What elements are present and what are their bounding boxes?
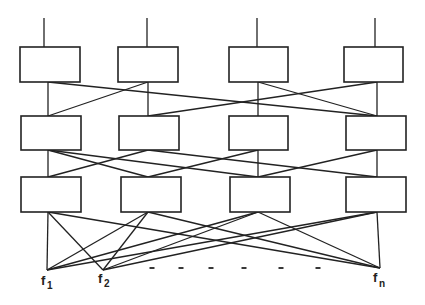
connection-lines [44,18,380,270]
switch-box-r2-c1 [21,116,81,150]
stage1-stage2-link [148,82,377,116]
switch-box-r2-c4 [346,116,406,150]
switch-box-r1-c1 [20,47,80,82]
switch-box-r2-c3 [229,116,288,150]
f1-label: f [41,273,46,288]
fn-label: f [373,270,378,285]
switch-boxes [20,47,406,212]
switch-box-r3-c3 [230,177,290,212]
stage1-stage2-link [258,82,377,116]
output-link-fn [377,212,380,268]
output-link-f2 [103,212,377,270]
output-label-fn: f n [373,270,385,289]
switch-box-r1-c4 [344,47,403,82]
stage2-stage3-link [148,150,377,177]
f1-subscript: 1 [47,280,53,291]
output-link-f1 [47,212,48,270]
switch-box-r1-c2 [118,47,178,82]
output-link-f1 [47,212,258,270]
stage2-stage3-link [148,150,258,177]
switch-box-r2-c2 [119,116,179,150]
stage2-stage3-link [258,150,377,177]
switch-box-r3-c4 [346,177,406,212]
switch-box-r1-c3 [229,47,288,82]
output-link-fn [258,212,380,268]
fn-subscript: n [379,278,385,289]
f2-subscript: 2 [104,278,110,289]
switch-box-r3-c2 [121,177,181,212]
network-diagram: f 1 f 2 f n [0,0,425,305]
output-label-f1: f 1 [41,273,53,291]
output-label-f2: f 2 [98,271,110,289]
switch-box-r3-c1 [21,177,81,212]
stage2-stage3-link [48,150,258,177]
f2-label: f [98,271,103,286]
